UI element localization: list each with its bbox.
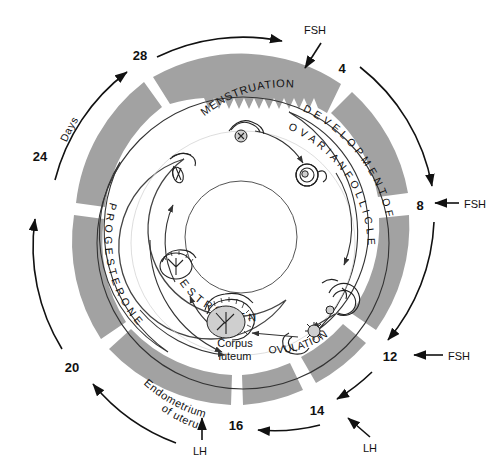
- estrogen-inner-circle: [185, 181, 297, 293]
- arrow-follicle-start: [255, 131, 303, 163]
- day-label-24: 24: [33, 149, 48, 164]
- menstrual-cycle-figure: 28 4 8 12 14 16 20 24 FSH FSH FSH LH LH …: [0, 0, 503, 464]
- day-label-4: 4: [338, 61, 346, 76]
- ring-segment-8-12: [351, 215, 409, 330]
- arrow-24-to-20: [33, 219, 62, 349]
- fsh-label-day12: FSH: [448, 350, 470, 362]
- illustration-growing-follicle: [296, 164, 327, 186]
- lh-arrow-day14: [348, 418, 370, 437]
- ring-segment-4-8: [331, 92, 408, 197]
- corpus-luteum-label-2: luteum: [218, 350, 251, 362]
- illustration-corpus-albicans: [160, 250, 196, 279]
- fsh-label-top: FSH: [304, 24, 326, 36]
- day-label-12: 12: [383, 349, 397, 364]
- day-label-20: 20: [65, 360, 79, 375]
- arrow-12-to-14: [337, 372, 372, 399]
- fsh-arrow-top: [305, 43, 321, 68]
- arrow-ovulation-to-corpus: [252, 333, 298, 337]
- arrow-28-to-4: [157, 37, 282, 57]
- day-label-16: 16: [229, 418, 243, 433]
- illustration-corpus-degenerating: [170, 153, 195, 184]
- estrogen-crescent: [119, 159, 286, 339]
- arrow-follicle-to-ovulation: [336, 173, 352, 265]
- ring-segment-24-28: [76, 82, 162, 207]
- arrow-14-to-16: [258, 425, 320, 431]
- fsh-label-day8: FSH: [464, 198, 486, 210]
- day-label-8: 8: [416, 198, 423, 213]
- cycle-diagram-canvas: 28 4 8 12 14 16 20 24 FSH FSH FSH LH LH …: [0, 0, 503, 464]
- corpus-luteum-label-1: Corpus: [217, 337, 253, 349]
- arrow-regress-up: [165, 205, 175, 282]
- day-label-14: 14: [310, 403, 325, 418]
- day-label-28: 28: [133, 48, 147, 63]
- lh-label-endometrium: LH: [193, 445, 207, 457]
- ring-segment-14-16: [242, 363, 303, 405]
- lh-label-day14: LH: [363, 442, 377, 454]
